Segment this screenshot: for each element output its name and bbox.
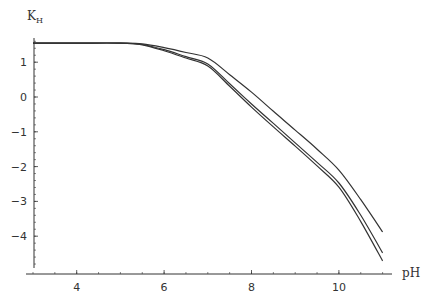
x-tick-label: 10 bbox=[332, 281, 346, 294]
y-tick-label: −4 bbox=[11, 230, 27, 243]
series-line-curve-3 bbox=[33, 43, 383, 261]
x-axis: 46810 bbox=[26, 270, 392, 294]
y-tick-label: 0 bbox=[20, 91, 27, 104]
y-tick-label: 1 bbox=[20, 56, 27, 69]
series-group bbox=[33, 43, 383, 261]
series-line-curve-1 bbox=[33, 43, 383, 232]
y-tick-label: −1 bbox=[11, 126, 27, 139]
x-axis-label: pH bbox=[402, 266, 420, 280]
x-tick-label: 6 bbox=[161, 281, 168, 294]
x-tick-label: 4 bbox=[73, 281, 80, 294]
y-axis-label: KH bbox=[27, 9, 43, 25]
y-axis: 10−1−2−3−4 bbox=[11, 38, 38, 268]
x-tick-label: 8 bbox=[248, 281, 255, 294]
series-line-curve-2 bbox=[33, 43, 383, 253]
y-tick-label: −3 bbox=[11, 195, 27, 208]
y-tick-label: −2 bbox=[11, 161, 27, 174]
chart: 10−1−2−3−4 46810 KH pH bbox=[0, 0, 434, 300]
